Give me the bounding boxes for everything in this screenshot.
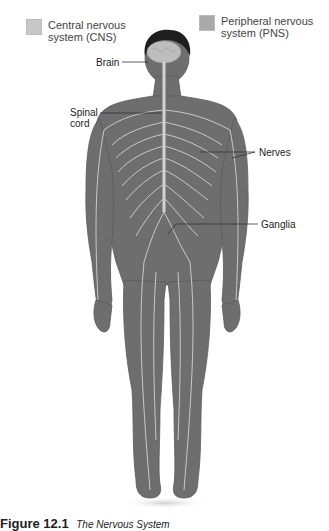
neck <box>153 76 181 98</box>
spinal-cord-label-line1: Spinal <box>70 107 98 118</box>
ganglia-label: Ganglia <box>261 219 295 230</box>
right-leg <box>168 280 211 498</box>
spinal-cord-label-line2: cord <box>70 118 98 129</box>
floor-shadow <box>120 497 210 509</box>
body-silhouette <box>86 33 248 498</box>
nerves-label: Nerves <box>259 147 291 158</box>
left-leg <box>123 280 166 498</box>
brain-label: Brain <box>96 57 119 68</box>
figure-number: Figure 12.1 <box>0 516 69 531</box>
left-hand <box>94 300 112 332</box>
figure-caption: Figure 12.1 The Nervous System <box>0 516 170 531</box>
brain <box>147 41 181 63</box>
spinal-cord-label: Spinal cord <box>70 107 98 129</box>
right-hand <box>222 300 240 332</box>
figure-title: The Nervous System <box>76 519 169 530</box>
